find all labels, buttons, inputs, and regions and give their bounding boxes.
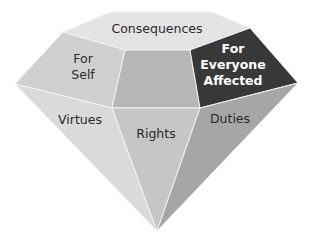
label-for-everyone-line2: Everyone xyxy=(200,57,265,72)
label-consequences: Consequences xyxy=(111,21,202,36)
label-for-self-line1: For xyxy=(73,51,93,66)
label-for-everyone-line1: For xyxy=(222,41,246,56)
gem-diagram: Consequences For Self For Everyone Affec… xyxy=(0,0,315,244)
label-virtues: Virtues xyxy=(58,112,102,127)
facet-center xyxy=(112,50,200,108)
label-for-everyone-line3: Affected xyxy=(203,73,262,88)
label-for-self-line2: Self xyxy=(71,67,95,82)
label-duties: Duties xyxy=(210,111,250,126)
label-rights: Rights xyxy=(136,126,175,141)
